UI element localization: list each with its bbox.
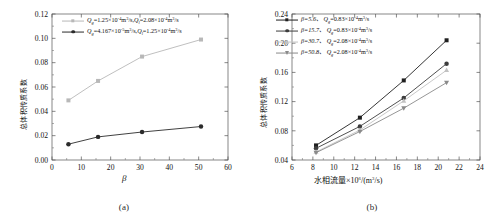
legend-item-2: β=30.7、 Qg=2.08×10-4m3/s xyxy=(276,36,372,47)
y-tick-label: 0.12 xyxy=(275,97,288,106)
legend-symbol xyxy=(276,48,298,57)
x-tick-label: 20 xyxy=(107,163,115,172)
data-point-s0 xyxy=(402,78,406,82)
data-point-s0 xyxy=(66,98,70,102)
x-tick-label: 18 xyxy=(414,163,422,172)
legend-marker-square xyxy=(285,18,288,21)
legend-symbol xyxy=(62,16,84,25)
x-tick-label: 24 xyxy=(476,163,484,172)
x-tick-label: 60 xyxy=(224,163,232,172)
legend-symbol xyxy=(276,37,298,46)
x-tick-label: 50 xyxy=(195,163,203,172)
legend-marker-triangle-up xyxy=(285,40,289,44)
series-line-2 xyxy=(316,70,447,152)
x-tick-label: 20 xyxy=(434,163,442,172)
data-point-s0 xyxy=(358,116,362,120)
series-line-1 xyxy=(316,64,447,149)
x-tick-label: 40 xyxy=(166,163,174,172)
legend-marker-square xyxy=(71,19,74,22)
y-tick-label: 0.04 xyxy=(35,107,48,116)
legend-marker-circle xyxy=(285,29,289,33)
panel-a-legend: Qg=1.25×10-4m3/s,Ql=2.08×10-4m3/s Qg=4.1… xyxy=(62,15,182,37)
legend-item-label-3: β=50.8、 Qg=2.08×10-4m3/s xyxy=(301,49,372,56)
legend-item-label-1: β=15.7、 Qg=0.83×10-4m3/s xyxy=(301,27,372,34)
panel-b-caption: (b) xyxy=(248,202,496,212)
data-point-s0 xyxy=(140,55,144,59)
data-point-s0 xyxy=(199,38,203,42)
y-tick-label: 0.02 xyxy=(35,131,48,140)
panel-b-legend: β=5.6、 Qg=0.83×10-4m3/s β=15.7、 Qg=0.83×… xyxy=(276,14,372,58)
panel-a-x-axis-label: β xyxy=(122,173,126,183)
legend-symbol xyxy=(62,27,84,36)
data-point-s3 xyxy=(401,106,406,111)
legend-symbol xyxy=(276,15,298,24)
chart-panel-b: 6810121416182022240.040.080.120.160.200.… xyxy=(248,0,496,215)
x-tick-label: 22 xyxy=(455,163,463,172)
legend-item-1: β=15.7、 Qg=0.83×10-4m3/s xyxy=(276,25,372,36)
series-line-1 xyxy=(68,127,201,145)
x-tick-label: 8 xyxy=(311,163,315,172)
legend-item-label-0: Qg=1.25×10-4m3/s,Ql=2.08×10-4m3/s xyxy=(87,17,179,24)
legend-item-label-0: β=5.6、 Qg=0.83×10-4m3/s xyxy=(301,16,369,23)
data-point-s1 xyxy=(199,124,203,128)
y-tick-label: 0.08 xyxy=(275,127,288,136)
data-point-s0 xyxy=(445,38,449,42)
x-tick-label: 30 xyxy=(136,163,144,172)
panel-b-x-axis-label: 水相流量×106/(m3/s) xyxy=(314,174,382,185)
panel-b-y-axis-label: 总体积传质系数 xyxy=(258,77,268,128)
x-tick-label: 0 xyxy=(50,163,54,172)
y-tick-label: 0.12 xyxy=(35,10,48,19)
legend-item-label-1: Qg=4.167×10-5m3/s,Ql=1.25×10-4m3/s xyxy=(87,28,182,35)
data-point-s1 xyxy=(444,61,448,65)
y-tick-label: 0.08 xyxy=(35,58,48,67)
legend-item-label-2: β=30.7、 Qg=2.08×10-4m3/s xyxy=(301,38,372,45)
y-tick-label: 0.10 xyxy=(35,34,48,43)
legend-item-0: Qg=1.25×10-4m3/s,Ql=2.08×10-4m3/s xyxy=(62,15,182,26)
x-tick-label: 6 xyxy=(290,163,294,172)
data-point-s2 xyxy=(444,68,449,73)
data-point-s1 xyxy=(140,130,144,134)
y-tick-label: 0.00 xyxy=(35,156,48,165)
data-point-s1 xyxy=(96,135,100,139)
y-tick-label: 0.16 xyxy=(275,68,288,77)
legend-symbol xyxy=(276,26,298,35)
data-point-s0 xyxy=(96,79,100,83)
x-tick-label: 10 xyxy=(78,163,86,172)
x-tick-label: 14 xyxy=(372,163,380,172)
legend-item-3: β=50.8、 Qg=2.08×10-4m3/s xyxy=(276,47,372,58)
figure-root: 01020304050600.000.020.040.060.080.100.1… xyxy=(0,0,496,215)
legend-item-1: Qg=4.167×10-5m3/s,Ql=1.25×10-4m3/s xyxy=(62,26,182,37)
chart-panel-a: 01020304050600.000.020.040.060.080.100.1… xyxy=(0,0,248,215)
x-tick-label: 16 xyxy=(393,163,401,172)
x-tick-label: 12 xyxy=(351,163,359,172)
data-point-s3 xyxy=(444,81,449,86)
x-tick-label: 10 xyxy=(330,163,338,172)
legend-marker-circle xyxy=(71,30,75,34)
data-point-s1 xyxy=(66,142,70,146)
y-tick-label: 0.04 xyxy=(275,156,288,165)
panel-a-y-axis-label: 总体积传质系数 xyxy=(18,79,28,130)
y-tick-label: 0.06 xyxy=(35,83,48,92)
legend-marker-triangle-down xyxy=(285,51,289,55)
series-line-0 xyxy=(68,40,201,101)
legend-item-0: β=5.6、 Qg=0.83×10-4m3/s xyxy=(276,14,372,25)
panel-a-caption: (a) xyxy=(0,202,248,212)
